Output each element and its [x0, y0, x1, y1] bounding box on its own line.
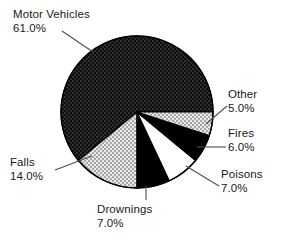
pie-label-drownings-percent: 7.0% — [97, 217, 152, 231]
pie-label-poisons-name: Poisons — [221, 168, 263, 182]
pie-label-motor-vehicles-name: Motor Vehicles — [13, 8, 90, 22]
pie-label-other: Other 5.0% — [228, 88, 257, 115]
pie-label-other-percent: 5.0% — [228, 102, 257, 116]
pie-label-fires-percent: 6.0% — [228, 141, 255, 155]
pie-label-falls-name: Falls — [10, 156, 43, 170]
pie-label-other-name: Other — [228, 88, 257, 102]
pie-chart-figure: Motor Vehicles 61.0% Other 5.0% Fires 6.… — [0, 0, 304, 245]
pie-label-fires-name: Fires — [228, 127, 255, 141]
pie-label-motor-vehicles-percent: 61.0% — [13, 22, 90, 36]
pie-label-fires: Fires 6.0% — [228, 127, 255, 154]
pie-label-drownings: Drownings 7.0% — [97, 203, 152, 230]
pie-label-drownings-name: Drownings — [97, 203, 152, 217]
pie-label-motor-vehicles: Motor Vehicles 61.0% — [13, 8, 90, 35]
pie-label-falls: Falls 14.0% — [10, 156, 43, 183]
pie-label-poisons: Poisons 7.0% — [221, 168, 263, 195]
pie-label-poisons-percent: 7.0% — [221, 182, 263, 196]
pie-label-falls-percent: 14.0% — [10, 170, 43, 184]
leader-line-poisons — [186, 166, 219, 186]
pie-slices — [61, 36, 213, 188]
